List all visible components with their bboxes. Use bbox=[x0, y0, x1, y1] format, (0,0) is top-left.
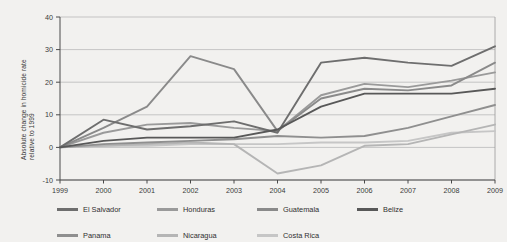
legend-item-costa-rica[interactable]: Costa Rica bbox=[257, 231, 319, 240]
x-tick-label-2002: 2002 bbox=[183, 186, 199, 195]
legend-label-guatemala: Guatemala bbox=[283, 205, 319, 214]
x-tick-label-2004: 2004 bbox=[270, 186, 286, 195]
legend-label-el-salvador: El Salvador bbox=[83, 205, 121, 214]
y-tick-label-0: 0 bbox=[49, 143, 53, 152]
x-tick-label-2008: 2008 bbox=[444, 186, 460, 195]
x-tick-label-2000: 2000 bbox=[96, 186, 112, 195]
x-tick-label-2005: 2005 bbox=[313, 186, 329, 195]
legend-label-nicaragua: Nicaragua bbox=[183, 231, 217, 240]
legend-swatch-el-salvador bbox=[57, 208, 78, 211]
series-line-guatemala bbox=[60, 56, 495, 147]
legend-swatch-costa-rica bbox=[257, 234, 278, 237]
legend-item-guatemala[interactable]: Guatemala bbox=[257, 205, 319, 214]
y-tick-label-20: 20 bbox=[45, 78, 53, 87]
series-line-el-salvador bbox=[60, 46, 495, 147]
legend-label-belize: Belize bbox=[383, 205, 403, 214]
x-tick-label-1999: 1999 bbox=[52, 186, 68, 195]
x-tick-label-2001: 2001 bbox=[139, 186, 155, 195]
legend-item-el-salvador[interactable]: El Salvador bbox=[57, 205, 121, 214]
legend-label-honduras: Honduras bbox=[183, 205, 215, 214]
y-tick-label--10: -10 bbox=[43, 176, 53, 185]
legend-item-panama[interactable]: Panama bbox=[57, 231, 111, 240]
x-tick-label-2009: 2009 bbox=[487, 186, 503, 195]
x-tick-label-2006: 2006 bbox=[357, 186, 373, 195]
y-tick-label-40: 40 bbox=[45, 13, 53, 22]
x-tick-label-2003: 2003 bbox=[226, 186, 242, 195]
legend-row-1: El SalvadorHondurasGuatemalaBelize bbox=[57, 205, 487, 218]
legend-row-2: PanamaNicaraguaCosta Rica bbox=[57, 218, 487, 231]
legend-item-honduras[interactable]: Honduras bbox=[157, 205, 215, 214]
legend-item-nicaragua[interactable]: Nicaragua bbox=[157, 231, 217, 240]
legend-swatch-panama bbox=[57, 234, 78, 237]
y-tick-label-30: 30 bbox=[45, 45, 53, 54]
chart-figure: Absolute change in homicide rate relativ… bbox=[0, 0, 507, 242]
legend-label-panama: Panama bbox=[83, 231, 111, 240]
chart-legend: El SalvadorHondurasGuatemalaBelize Panam… bbox=[57, 205, 487, 231]
legend-swatch-nicaragua bbox=[157, 234, 178, 237]
series-line-panama bbox=[60, 105, 495, 147]
legend-label-costa-rica: Costa Rica bbox=[283, 231, 319, 240]
legend-swatch-belize bbox=[357, 208, 378, 211]
legend-swatch-guatemala bbox=[257, 208, 278, 211]
legend-swatch-honduras bbox=[157, 208, 178, 211]
y-tick-label-10: 10 bbox=[45, 110, 53, 119]
x-tick-label-2007: 2007 bbox=[400, 186, 416, 195]
legend-item-belize[interactable]: Belize bbox=[357, 205, 403, 214]
